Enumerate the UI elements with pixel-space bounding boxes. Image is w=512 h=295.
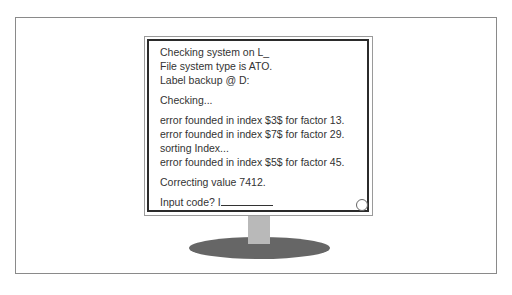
power-button-icon xyxy=(356,199,368,211)
input-code-field[interactable] xyxy=(221,196,273,206)
terminal-line: error founded in index $3$ for factor 13… xyxy=(160,113,344,127)
terminal-line: Checking system on L_ xyxy=(160,45,269,59)
terminal-line: Label backup @ D: xyxy=(160,73,249,87)
terminal-line: Checking... xyxy=(160,93,213,107)
input-prompt-line: Input code? I xyxy=(160,195,273,209)
terminal-line: sorting Index... xyxy=(160,141,229,155)
input-prompt: Input code? I xyxy=(160,196,221,208)
terminal-line: File system type is ATO. xyxy=(160,59,272,73)
terminal-line: Correcting value 7412. xyxy=(160,175,266,189)
terminal-line: error founded in index $5$ for factor 45… xyxy=(160,155,344,169)
terminal-line: error founded in index $7$ for factor 29… xyxy=(160,127,344,141)
monitor-neck xyxy=(248,216,270,244)
